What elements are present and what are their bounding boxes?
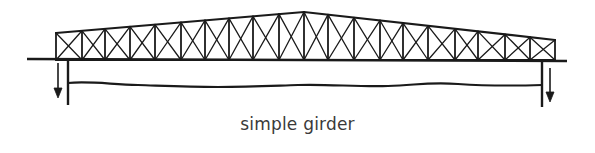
truss <box>56 12 555 60</box>
down-arrow-icon <box>54 88 62 98</box>
reaction-arrows <box>54 63 554 102</box>
ground-line-path <box>68 82 542 87</box>
supports <box>68 59 542 107</box>
wavy-ground-line <box>68 82 542 87</box>
down-arrow-icon <box>546 92 554 102</box>
simple-girder-diagram: simple girder <box>0 0 595 153</box>
diagram-caption: simple girder <box>0 114 595 134</box>
